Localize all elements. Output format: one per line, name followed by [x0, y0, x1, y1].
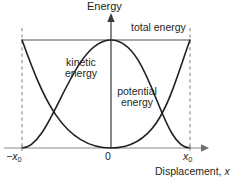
- y-axis-arrowhead: [107, 13, 114, 22]
- subscript-zero: 0: [188, 155, 192, 164]
- kinetic-energy-label: kinetic energy: [52, 57, 110, 80]
- y-axis-title: Energy: [87, 1, 122, 13]
- x-tick-label-negative-amplitude: −x0: [6, 151, 22, 162]
- potential-energy-label: potential energy: [107, 86, 167, 109]
- energy-displacement-figure: Energy total energy kinetic energy poten…: [0, 0, 239, 182]
- potential-energy-label-line2: energy: [107, 97, 167, 108]
- x-axis-arrowhead: [201, 144, 209, 152]
- total-energy-label: total energy: [131, 22, 186, 33]
- subscript-zero: 0: [17, 155, 21, 164]
- kinetic-energy-label-line2: energy: [52, 68, 110, 79]
- x-axis-title-text: Displacement,: [155, 165, 224, 177]
- x-tick-label-origin: 0: [105, 151, 111, 162]
- x-axis-title: Displacement, x: [155, 166, 230, 177]
- x-tick-label-positive-amplitude: x0: [183, 151, 192, 162]
- x-axis-title-variable: x: [224, 165, 229, 177]
